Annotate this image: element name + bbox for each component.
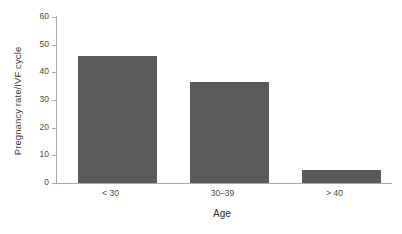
y-axis-tick: 0	[0, 183, 56, 184]
y-axis-tick-label: 50	[40, 38, 49, 51]
bar-chart: Pregnancy rate/IVF cycle 0 10 20 30 40 5…	[0, 0, 402, 234]
y-axis-tick: 20	[0, 128, 56, 129]
y-axis-tick-label: 40	[40, 65, 49, 78]
y-axis-tick: 30	[0, 100, 56, 101]
bar-lt-30	[78, 56, 157, 183]
y-axis-tick: 10	[0, 155, 56, 156]
y-axis-tick-label: 30	[40, 93, 49, 106]
x-axis-category-label: < 30	[58, 188, 163, 198]
y-axis-tick: 60	[0, 17, 56, 18]
x-axis-category-label: 30–39	[170, 188, 275, 198]
y-axis-tick-mark	[52, 45, 56, 46]
x-axis-category-label: > 40	[282, 188, 387, 198]
bar-gt-40	[302, 170, 381, 183]
y-axis-tick-mark	[52, 72, 56, 73]
y-axis-tick: 40	[0, 72, 56, 73]
bar-30-39	[190, 82, 269, 183]
y-axis-title: Pregnancy rate/IVF cycle	[10, 6, 26, 196]
y-axis-tick: 50	[0, 45, 56, 46]
y-axis-tick-mark	[52, 128, 56, 129]
y-axis-tick-label: 10	[40, 148, 49, 161]
y-axis-tick-mark	[52, 17, 56, 18]
y-axis-tick-mark	[52, 155, 56, 156]
y-axis-tick-label: 20	[40, 121, 49, 134]
y-axis-tick-mark	[52, 183, 56, 184]
x-axis-title: Age	[57, 208, 387, 219]
x-axis-line	[56, 183, 392, 184]
plot-area	[57, 17, 387, 183]
y-axis-tick-label: 0	[44, 176, 49, 189]
y-axis-tick-label: 60	[40, 10, 49, 23]
y-axis-tick-mark	[52, 100, 56, 101]
